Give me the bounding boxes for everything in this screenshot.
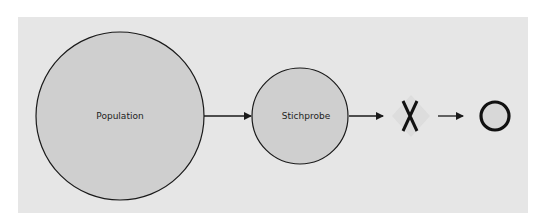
stichprobe-label: Stichprobe [282, 111, 331, 121]
o-symbol [481, 102, 509, 130]
population-node: Population [36, 32, 204, 200]
diagram-canvas: Population Stichprobe [0, 0, 548, 224]
stichprobe-node: Stichprobe [252, 68, 348, 164]
x-symbol [392, 95, 430, 137]
population-label: Population [96, 111, 143, 121]
